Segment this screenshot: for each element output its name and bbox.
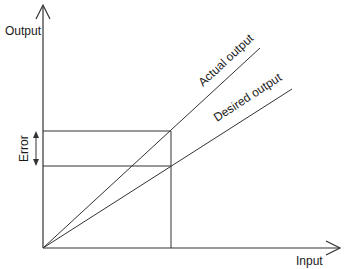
desired-output-line (43, 89, 292, 248)
error-diagram: Output Input Error Actual output Desired… (0, 0, 346, 269)
error-arrow-down-icon (33, 159, 39, 166)
desired-output-label: Desired output (211, 70, 285, 125)
y-axis-label: Output (5, 24, 42, 38)
x-axis-label: Input (296, 254, 323, 268)
error-label: Error (17, 135, 31, 162)
actual-output-line (43, 48, 260, 248)
error-arrow-up-icon (33, 131, 39, 138)
